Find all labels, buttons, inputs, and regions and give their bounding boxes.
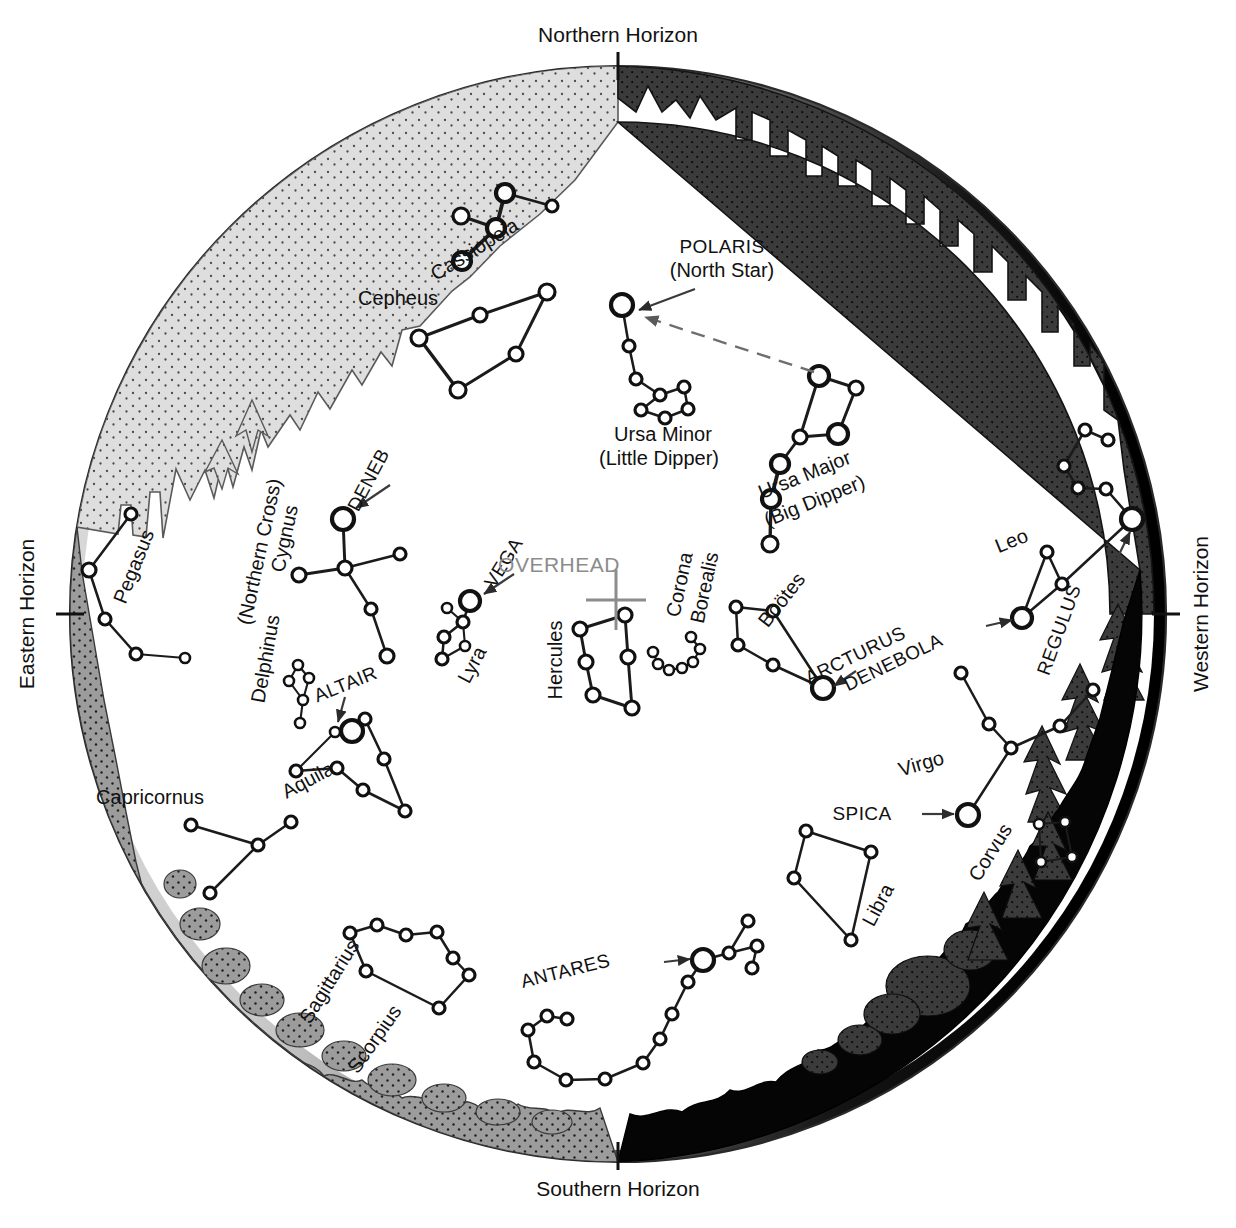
star-marker [99, 613, 111, 625]
star-marker [442, 603, 452, 613]
star-marker [1060, 817, 1070, 827]
star-marker [180, 653, 190, 663]
star-marker [625, 701, 639, 715]
east-horizon-label: Eastern Horizon [15, 539, 38, 690]
star-marker [767, 659, 779, 671]
constellation-sublabel-ursaminor: (Little Dipper) [599, 447, 719, 469]
star-marker [285, 816, 297, 828]
star-marker [692, 949, 714, 971]
star-marker [599, 1073, 611, 1085]
star-marker [284, 676, 294, 686]
star-marker [845, 934, 857, 946]
star-marker [360, 965, 372, 977]
star-marker [686, 632, 696, 642]
star-marker [762, 536, 778, 552]
star-marker [447, 952, 459, 964]
star-marker [457, 616, 469, 628]
star-marker [1087, 684, 1099, 696]
star-marker [380, 649, 394, 663]
star-marker [400, 929, 412, 941]
star-marker [828, 424, 848, 444]
south-horizon-label: Southern Horizon [536, 1177, 699, 1200]
star-marker [654, 1033, 666, 1045]
star-marker [666, 1008, 678, 1020]
star-marker [204, 887, 216, 899]
star-marker [623, 340, 635, 352]
star-marker [546, 200, 558, 212]
star-marker [682, 403, 694, 415]
star-marker [955, 667, 967, 679]
star-marker [678, 381, 690, 393]
star-chart: CassiopeiaCepheusUrsa Minor(Little Dippe… [0, 0, 1236, 1228]
star-marker [560, 1074, 572, 1086]
star-marker [539, 284, 555, 300]
star-marker [561, 1013, 573, 1025]
star-marker [682, 976, 694, 988]
star-marker [130, 648, 142, 660]
star-marker [849, 381, 863, 395]
constellation-label-hercules: Hercules [544, 621, 566, 700]
north-horizon-label: Northern Horizon [538, 23, 698, 46]
star-marker [357, 784, 369, 796]
star-marker [723, 947, 735, 959]
star-marker [82, 563, 96, 577]
star-marker [621, 650, 635, 664]
star-marker [293, 660, 303, 670]
star-marker [453, 208, 469, 224]
star-marker [463, 969, 475, 981]
star-marker [450, 382, 466, 398]
star-marker [1034, 819, 1044, 829]
constellation-label-cepheus: Cepheus [358, 287, 438, 309]
star-marker [528, 1056, 540, 1068]
star-marker [732, 639, 744, 651]
star-marker [365, 603, 377, 615]
star-marker [394, 548, 406, 560]
star-marker [809, 366, 829, 386]
star-marker [664, 665, 674, 675]
star-marker [1100, 483, 1112, 495]
star-marker [1058, 460, 1070, 472]
star-marker [298, 695, 308, 705]
constellation-label-capricornus: Capricornus [96, 786, 204, 808]
star-marker [677, 663, 687, 673]
star-marker [865, 846, 877, 858]
star-marker [252, 839, 264, 851]
star-marker [460, 591, 480, 611]
overhead-marker-text: OVERHEAD [498, 553, 620, 576]
polaris-callout-subtext: (North Star) [670, 259, 774, 281]
star-marker [1102, 434, 1114, 446]
star-marker [788, 872, 800, 884]
star-marker [433, 1002, 445, 1014]
star-marker [359, 713, 371, 725]
star-marker [1041, 546, 1053, 558]
star-marker [1012, 608, 1032, 628]
star-marker [654, 389, 666, 401]
star-marker [579, 655, 593, 669]
star-marker [1121, 508, 1143, 530]
star-marker [635, 404, 647, 416]
star-marker [573, 622, 587, 636]
star-marker [800, 825, 812, 837]
star-marker [431, 926, 443, 938]
star-marker [338, 561, 352, 575]
star-marker [1067, 852, 1077, 862]
star-marker [1054, 720, 1066, 732]
star-marker [586, 688, 600, 702]
star-chart-canvas: CassiopeiaCepheusUrsa Minor(Little Dippe… [0, 0, 1236, 1228]
star-marker [730, 601, 742, 613]
star-marker [648, 647, 658, 657]
star-marker [411, 330, 427, 346]
star-marker [1079, 424, 1091, 436]
star-marker [496, 184, 514, 202]
star-marker [371, 919, 383, 931]
star-marker [509, 347, 523, 361]
star-marker [611, 294, 633, 316]
star-marker [332, 508, 354, 530]
star-marker [637, 1057, 649, 1069]
star-marker [438, 631, 450, 643]
star-marker [793, 430, 807, 444]
star-marker [746, 962, 758, 974]
star-marker [983, 718, 995, 730]
star-marker [522, 1024, 534, 1036]
star-marker [695, 644, 705, 654]
